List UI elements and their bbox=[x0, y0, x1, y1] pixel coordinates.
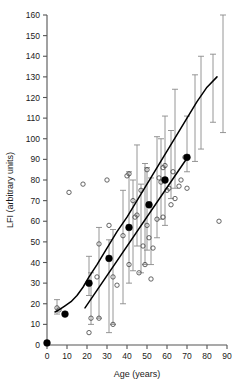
data-point-mean bbox=[162, 177, 169, 184]
data-point-mean bbox=[62, 311, 69, 318]
scatter-plot: 0102030405060708090 01020304050607080901… bbox=[0, 0, 236, 381]
data-point-mean bbox=[106, 255, 113, 262]
y-tick-label: 0 bbox=[35, 340, 40, 350]
trend-lines bbox=[55, 77, 217, 312]
data-point-open bbox=[171, 170, 175, 174]
data-point-open bbox=[169, 203, 173, 207]
x-tick-label: 70 bbox=[182, 351, 192, 361]
x-tick-label: 30 bbox=[102, 351, 112, 361]
trend-line bbox=[55, 77, 217, 312]
y-tick-label: 140 bbox=[26, 51, 40, 61]
data-point-mean bbox=[44, 340, 51, 347]
figure-container: 0102030405060708090 01020304050607080901… bbox=[0, 0, 236, 381]
data-point-open bbox=[185, 186, 189, 190]
individual-data-points bbox=[55, 155, 221, 335]
data-point-open bbox=[151, 246, 155, 250]
y-axis-ticks: 0102030405060708090100110120130140150160 bbox=[26, 10, 47, 350]
data-point-open bbox=[115, 283, 119, 287]
y-tick-label: 90 bbox=[31, 154, 41, 164]
x-tick-label: 0 bbox=[45, 351, 50, 361]
data-point-open bbox=[81, 182, 85, 186]
y-tick-label: 70 bbox=[31, 196, 41, 206]
data-point-open bbox=[87, 330, 91, 334]
y-tick-label: 150 bbox=[26, 31, 40, 41]
data-point-open bbox=[67, 190, 71, 194]
data-point-mean bbox=[184, 154, 191, 161]
y-tick-label: 80 bbox=[31, 175, 41, 185]
y-tick-label: 100 bbox=[26, 134, 40, 144]
mean-data-points bbox=[44, 154, 191, 346]
y-tick-label: 160 bbox=[26, 10, 40, 20]
data-point-open bbox=[107, 223, 111, 227]
data-point-open bbox=[149, 277, 153, 281]
y-tick-label: 60 bbox=[31, 216, 41, 226]
data-point-open bbox=[161, 215, 165, 219]
y-tick-label: 120 bbox=[26, 93, 40, 103]
x-tick-label: 40 bbox=[122, 351, 132, 361]
x-axis-ticks: 0102030405060708090 bbox=[45, 345, 232, 361]
data-point-mean bbox=[126, 224, 133, 231]
data-point-mean bbox=[146, 201, 153, 208]
error-bars bbox=[54, 15, 226, 333]
y-tick-label: 50 bbox=[31, 237, 41, 247]
data-point-open bbox=[179, 178, 183, 182]
x-tick-label: 50 bbox=[142, 351, 152, 361]
x-axis-title: Age (years) bbox=[114, 369, 161, 379]
data-point-open bbox=[157, 176, 161, 180]
data-point-open bbox=[141, 244, 145, 248]
data-point-open bbox=[217, 219, 221, 223]
y-tick-label: 20 bbox=[31, 299, 41, 309]
data-point-open bbox=[147, 236, 151, 240]
data-point-open bbox=[105, 178, 109, 182]
y-tick-label: 40 bbox=[31, 258, 41, 268]
y-tick-label: 110 bbox=[26, 113, 40, 123]
x-tick-label: 80 bbox=[202, 351, 212, 361]
x-tick-label: 10 bbox=[62, 351, 72, 361]
data-point-open bbox=[177, 184, 181, 188]
y-tick-label: 130 bbox=[26, 72, 40, 82]
y-axis-title: LFI (arbitrary units) bbox=[5, 152, 15, 228]
x-tick-label: 60 bbox=[162, 351, 172, 361]
x-tick-label: 90 bbox=[222, 351, 232, 361]
data-point-mean bbox=[86, 280, 93, 287]
data-point-open bbox=[95, 275, 99, 279]
y-tick-label: 10 bbox=[31, 319, 41, 329]
y-tick-label: 30 bbox=[31, 278, 41, 288]
x-tick-label: 20 bbox=[82, 351, 92, 361]
